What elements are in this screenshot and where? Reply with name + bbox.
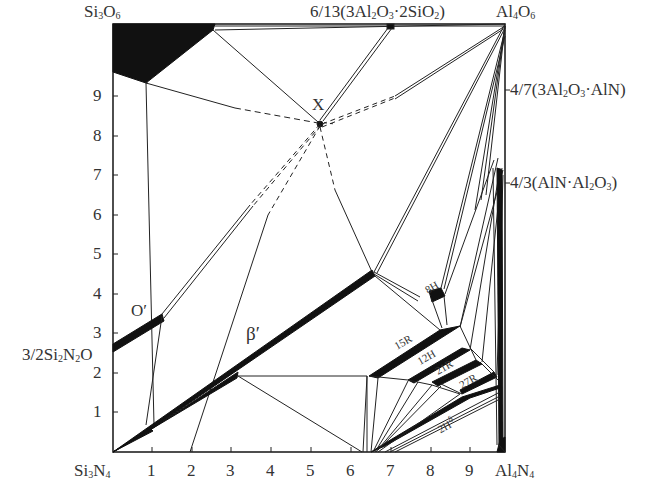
corner-label-si3n4: Si3N4 (74, 462, 110, 480)
y-tick-3: 3 (93, 324, 102, 341)
y-tick-6: 6 (93, 206, 102, 223)
x-tick-8: 8 (426, 462, 435, 479)
x-tick-6: 6 (346, 462, 355, 479)
y-tick-7: 7 (93, 166, 102, 183)
diagram-frame (113, 24, 505, 452)
corner-label-al4o6: Al4O6 (496, 3, 535, 21)
x-tick-4: 4 (266, 462, 275, 479)
corner-label-si3o6: Si3O6 (84, 3, 120, 21)
x-tick-5: 5 (306, 462, 315, 479)
x-tick-9: 9 (465, 462, 474, 479)
x-tick-3: 3 (226, 462, 235, 479)
label-si2n2o: 3/2Si2N2O (22, 346, 92, 364)
y-tick-5: 5 (93, 245, 102, 262)
x-tick-2: 2 (187, 462, 196, 479)
corner-label-al4n4: Al4N4 (495, 462, 534, 480)
mullite-label: 6/13(3Al2O3·2SiO2) (310, 3, 445, 21)
phase-label-x: X (312, 96, 324, 113)
label-4-3-aln-al2o3: 4/3(AlN·Al2O3) (510, 174, 617, 192)
x-tick-1: 1 (147, 462, 156, 479)
label-4-7-3al2o3-aln: 4/7(3Al2O3·AlN) (510, 81, 626, 99)
y-tick-2: 2 (93, 364, 102, 381)
phase-label-o-prime: O′ (131, 302, 147, 319)
x-tick-7: 7 (386, 462, 395, 479)
y-tick-1: 1 (93, 403, 102, 420)
y-tick-9: 9 (93, 87, 102, 104)
y-tick-4: 4 (93, 285, 102, 302)
y-tick-8: 8 (93, 127, 102, 144)
phase-label-beta-prime: β′ (246, 324, 260, 343)
